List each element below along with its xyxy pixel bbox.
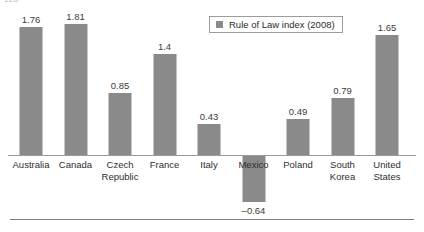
figure-bottom-rule <box>10 219 414 220</box>
bar-value-label: 1.81 <box>66 11 85 22</box>
bar-group: 1.4France <box>143 0 187 232</box>
bar[interactable] <box>376 35 399 155</box>
bar-group: 1.76Australia <box>9 0 53 232</box>
bar-group: –0.64Mexico <box>232 0 276 232</box>
bar-value-label: 0.49 <box>289 106 308 117</box>
bar-group: 0.43Italy <box>187 0 231 232</box>
bar-chart-plot-area: 1.76Australia1.81Canada0.85CzechRepublic… <box>0 0 424 232</box>
bar[interactable] <box>287 119 310 155</box>
bar-value-label: 1.4 <box>158 41 171 52</box>
category-label: UnitedStates <box>359 159 415 182</box>
bar-value-label: 0.79 <box>333 85 352 96</box>
bar[interactable] <box>331 98 354 155</box>
bar[interactable] <box>153 54 176 156</box>
bar[interactable] <box>109 93 132 155</box>
bar-value-label: 0.43 <box>200 111 219 122</box>
bar-value-label: 0.85 <box>111 80 130 91</box>
bar[interactable] <box>20 27 43 155</box>
bar-group: 1.81Canada <box>54 0 98 232</box>
bar-group: 1.65UnitedStates <box>365 0 409 232</box>
chart-page: 126 1.76Australia1.81Canada0.85CzechRepu… <box>0 0 424 232</box>
chart-legend: Rule of Law index (2008) <box>209 16 343 33</box>
legend-swatch-icon <box>216 21 223 28</box>
bar-value-label: –0.64 <box>242 205 266 216</box>
legend-label: Rule of Law index (2008) <box>229 19 335 30</box>
bar-group: 0.49Poland <box>276 0 320 232</box>
bar[interactable] <box>64 24 87 155</box>
bar-value-label: 1.65 <box>378 22 397 33</box>
bar-group: 0.85CzechRepublic <box>98 0 142 232</box>
bar-value-label: 1.76 <box>22 14 41 25</box>
bar[interactable] <box>198 124 221 155</box>
bar-group: 0.79SouthKorea <box>321 0 365 232</box>
